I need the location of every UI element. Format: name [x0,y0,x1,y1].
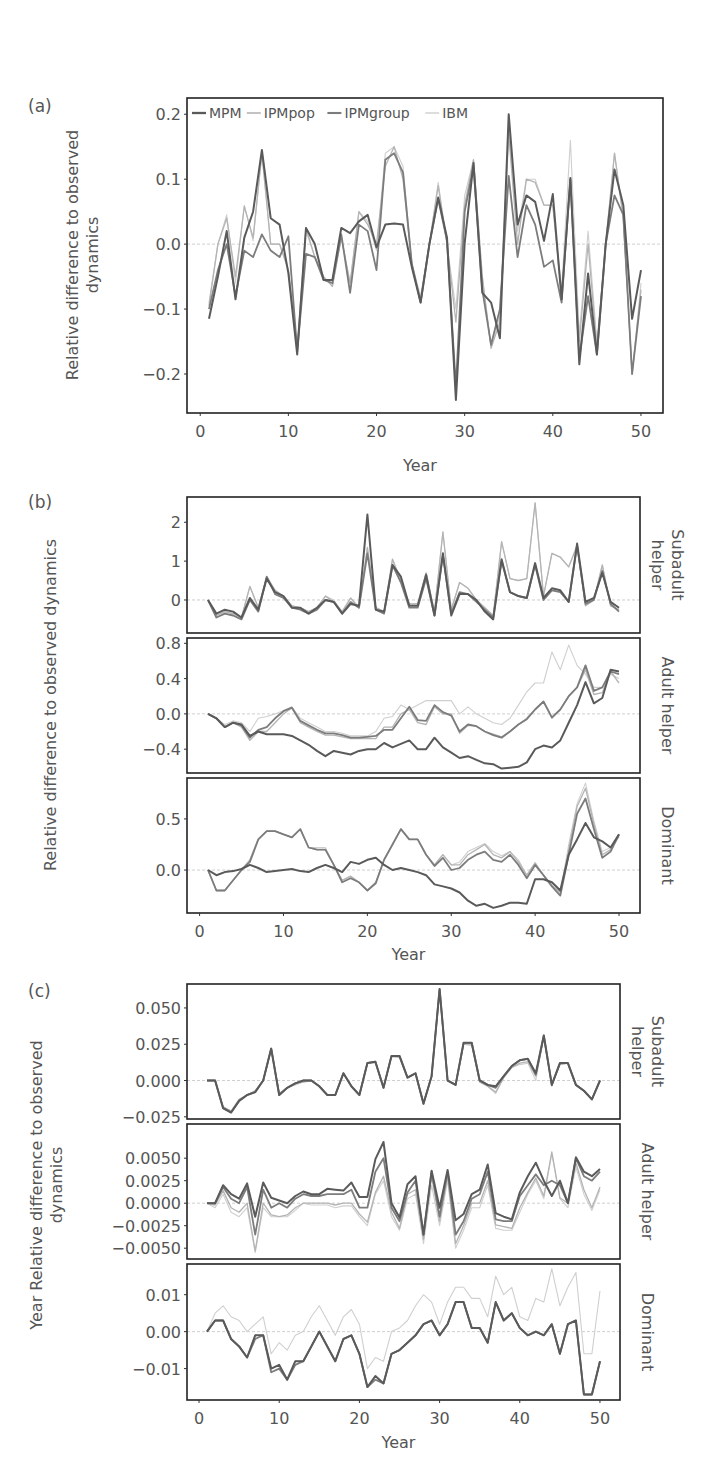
x-tick-label: 20 [357,922,377,941]
panel-label: (c) [28,981,51,1001]
y-tick-label: 0.4 [156,670,181,689]
facet-subadult-helper: −0.0250.0000.0250.050Subadulthelper [122,984,667,1127]
y-tick-label: 0.0 [156,861,181,880]
figure: (a)−0.2−0.10.00.10.201020304050MPMIPMpop… [0,0,709,1472]
x-tick-label: 30 [454,422,474,441]
series-line-ipmgroup [208,799,619,896]
y-tick-label: 0.5 [156,810,181,829]
y-tick-label: 0.1 [156,170,181,189]
x-tick-label: 20 [366,422,386,441]
x-axis-title: Year [391,945,426,964]
x-tick-label: 0 [195,422,205,441]
x-tick-label: 30 [429,1409,449,1428]
facet-subadult-helper: 012Subadulthelper [171,497,687,633]
x-tick-label: 40 [543,422,563,441]
x-tick-label: 40 [510,1409,530,1428]
y-tick-label: 0.050 [135,999,181,1018]
series-line-ipmpop [208,670,619,741]
legend: MPMIPMpopIPMgroupIBM [192,105,468,121]
facet-adult-helper: −0.0050−0.00250.00000.00250.0050Adult he… [112,1124,657,1259]
x-tick-label: 0 [194,922,204,941]
panel-a-plot: −0.2−0.10.00.10.201020304050 [142,98,663,441]
facet-strip-label: Subadulthelper [628,1016,667,1087]
series-line-mpm [207,1302,600,1394]
y-tick-label: 0.0 [156,235,181,254]
y-axis-title: Year Relative difference to observeddyna… [27,1040,66,1330]
x-tick-label: 20 [349,1409,369,1428]
x-axis-title: Year [381,1433,416,1452]
x-tick-label: 0 [194,1409,204,1428]
series-line-mpm [208,823,619,908]
y-tick-label: −0.2 [142,365,181,384]
x-tick-label: 30 [441,922,461,941]
y-tick-label: 0.00 [145,1323,181,1342]
y-tick-label: 0.025 [135,1035,181,1054]
plot-frame [187,778,640,913]
x-tick-label: 10 [278,422,298,441]
facet-strip-label: Adult helper [658,657,677,755]
facet-adult-helper: −0.40.00.40.8Adult helper [142,634,677,773]
y-tick-label: 0.0050 [125,1149,181,1168]
series-line-mpm [208,670,619,769]
legend-label-ipmpop: IPMpop [264,105,315,121]
plot-frame [187,638,640,773]
series-line-ibm [208,783,619,892]
plot-frame [187,98,663,413]
facet-strip-label: Dominant [638,1293,657,1372]
series-line-ipmgroup [207,1158,600,1235]
panel-label: (b) [28,492,52,512]
y-tick-label: 0.0 [156,705,181,724]
plot-frame [187,984,620,1119]
legend-label-ibm: IBM [442,105,468,121]
y-tick-label: −0.1 [142,300,181,319]
plot-frame [187,497,640,633]
y-tick-label: 1 [171,552,181,571]
y-tick-label: −0.4 [142,740,181,759]
panel-label: (a) [28,96,52,116]
x-tick-label: 50 [631,422,651,441]
y-tick-label: 0.000 [135,1072,181,1091]
y-axis-title: Relative difference to observed dynamics [41,539,60,871]
series-line-mpm [207,989,600,1112]
facet-strip-label: Subadulthelper [648,529,687,600]
y-tick-label: −0.0025 [112,1217,181,1236]
x-tick-label: 50 [609,922,629,941]
y-tick-label: 0.8 [156,634,181,653]
x-tick-label: 50 [590,1409,610,1428]
y-tick-label: 0 [171,591,181,610]
y-tick-label: −0.025 [122,1108,181,1127]
y-tick-label: 0.01 [145,1286,181,1305]
legend-label-ipmgroup: IPMgroup [344,105,409,121]
series-line-ipmgroup [208,665,619,737]
x-tick-label: 10 [273,922,293,941]
series-line-ipmpop [208,788,619,892]
facet-strip-label: Adult helper [638,1143,657,1241]
series-line-ibm [208,645,619,736]
y-tick-label: −0.0050 [112,1239,181,1258]
facet-strip-label: Dominant [658,806,677,885]
facet-dominant: 0.00.501020304050Dominant [156,778,677,941]
y-tick-label: 0.2 [156,105,181,124]
x-axis-title: Year [402,456,437,475]
x-tick-label: 40 [525,922,545,941]
series-line-ibm [207,1269,600,1369]
y-tick-label: −0.01 [132,1360,181,1379]
y-axis-title: Relative difference to observeddynamics [63,130,102,380]
y-tick-label: 2 [171,513,181,532]
facet-dominant: −0.010.000.0101020304050Dominant [132,1264,657,1428]
x-tick-label: 10 [269,1409,289,1428]
y-tick-label: 0.0000 [125,1194,181,1213]
series-line-ibm [209,127,641,374]
legend-label-mpm: MPM [209,105,242,121]
y-tick-label: 0.0025 [125,1172,181,1191]
